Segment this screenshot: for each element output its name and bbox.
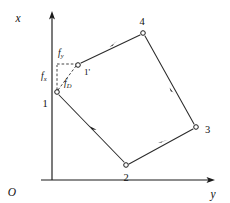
node-label-3: 3: [205, 124, 210, 135]
quadrilateral-element-diagram: x y O fy fx fD: [0, 0, 230, 203]
node-marker-1prime: [76, 63, 81, 68]
element-edges: [59, 35, 194, 164]
axis-group: [41, 11, 215, 183]
edge-2-to-3-arrowhead: [158, 140, 168, 142]
force-label-y-subscript: y: [60, 52, 64, 59]
edge-4-to-3: [145, 36, 194, 124]
origin-label: O: [8, 186, 17, 198]
edge-1-to-2-arrowhead: [87, 125, 96, 130]
node-marker-3: [194, 125, 199, 130]
force-label-x: fx: [41, 71, 47, 82]
figure-container: x y O fy fx fD: [0, 0, 230, 203]
y-axis-label: y: [209, 188, 216, 201]
x-axis-label: x: [14, 12, 21, 24]
force-label-y: fy: [58, 48, 64, 59]
node-marker-1: [55, 90, 60, 95]
node-marker-2: [124, 163, 129, 168]
node-label-4: 4: [139, 16, 145, 27]
edge-2-to-3: [129, 129, 193, 164]
node-label-2: 2: [123, 172, 128, 183]
force-label-x-subscript: x: [43, 75, 47, 82]
node-label-1: 1: [42, 98, 47, 109]
node-marker-4: [141, 31, 146, 36]
force-label-d: fD: [64, 78, 72, 89]
node-markers: [55, 31, 199, 168]
force-label-d-subscript: D: [66, 82, 72, 89]
node-label-1prime: 1': [84, 67, 91, 77]
edge-1prime-to-4: [81, 35, 140, 63]
